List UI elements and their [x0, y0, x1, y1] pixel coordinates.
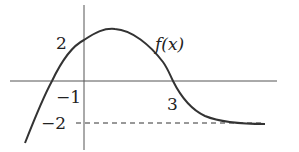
function-graph: 2 −1 −2 3 f(x) [0, 0, 299, 152]
y-intercept-label: 2 [56, 33, 67, 53]
function-label: f(x) [153, 34, 184, 54]
x-intercept-left-label: −1 [56, 87, 81, 107]
asymptote-label: −2 [41, 113, 66, 133]
x-intercept-right-label: 3 [167, 94, 178, 114]
